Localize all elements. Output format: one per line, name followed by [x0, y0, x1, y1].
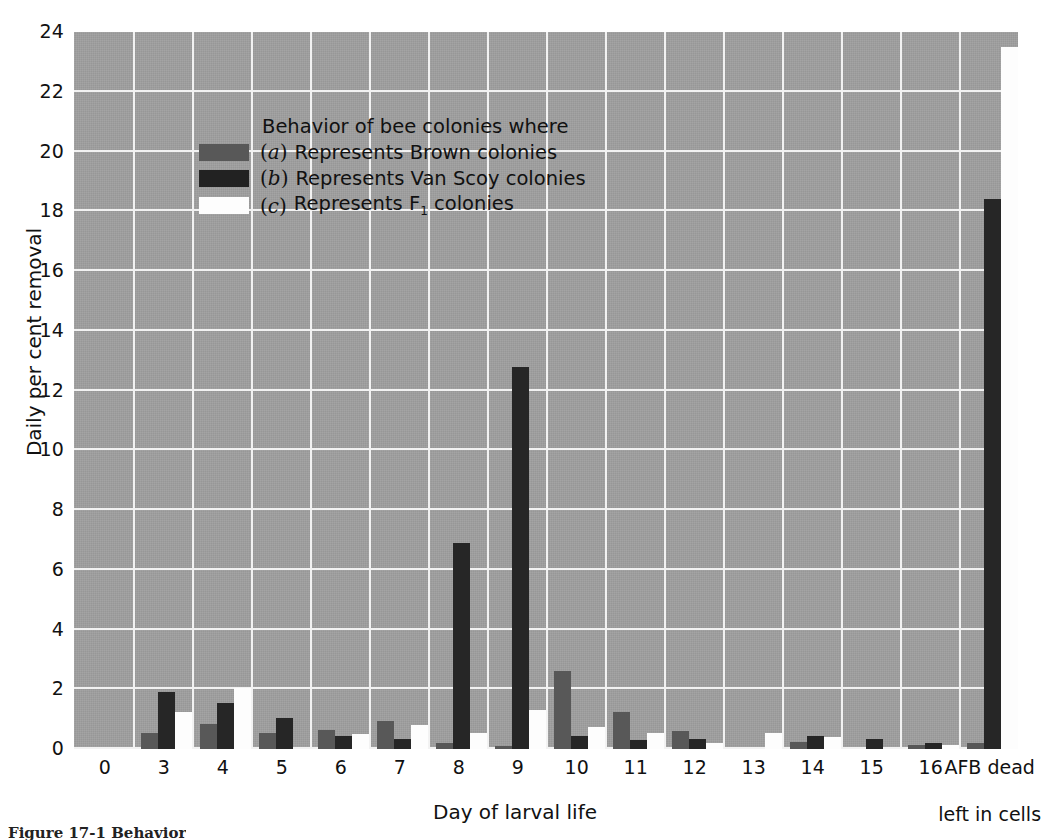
legend-label-b: Represents Van Scoy colonies	[295, 166, 585, 191]
y-tick-22: 22	[22, 80, 64, 102]
x-tick-7: 7	[370, 757, 430, 778]
bar-a-10	[554, 671, 571, 749]
bar-a-12	[672, 731, 689, 749]
y-tick-8: 8	[22, 498, 64, 520]
legend-symbol-a: (a)	[260, 139, 288, 165]
legend-swatch-a-icon	[199, 144, 249, 161]
x-tick-0: 0	[75, 757, 135, 778]
bar-b-10	[571, 736, 588, 749]
x-tick-15: 15	[842, 757, 902, 778]
bar-c-6	[352, 734, 369, 749]
x-tick-5: 5	[252, 757, 312, 778]
x-tick-11: 11	[606, 757, 666, 778]
legend-symbol-c: (c)	[260, 193, 287, 219]
x-tick-6: 6	[311, 757, 371, 778]
bar-a-AFB-dead-left-in-cells	[967, 743, 984, 749]
y-axis-title: Daily per cent removal	[22, 212, 46, 472]
y-tick-24: 24	[22, 20, 64, 42]
bar-a-11	[613, 712, 630, 749]
gridline-vertical	[841, 32, 843, 749]
bar-c-AFB-dead-left-in-cells	[1001, 47, 1018, 749]
bar-a-7	[377, 721, 394, 749]
legend-label-c: Represents F1 colonies	[294, 191, 514, 219]
x-tick-3: 3	[134, 757, 194, 778]
bar-a-14	[790, 742, 807, 749]
legend-symbol-b: (b)	[260, 165, 288, 191]
legend-title: Behavior of bee colonies where	[262, 114, 586, 139]
bar-c-10	[588, 727, 605, 749]
legend-item-c[interactable]: (c) Represents F1 colonies	[199, 191, 586, 219]
bar-a-8	[436, 743, 453, 749]
bar-b-9	[512, 367, 529, 749]
gridline-vertical	[959, 32, 961, 749]
x-tick-afb-line1: AFB dead	[928, 757, 1045, 778]
bar-c-7	[411, 725, 428, 749]
legend-swatch-c-icon	[199, 197, 249, 214]
legend: Behavior of bee colonies where (a) Repre…	[199, 114, 586, 220]
bar-a-6	[318, 730, 335, 749]
y-tick-20: 20	[22, 140, 64, 162]
gridline-vertical	[782, 32, 784, 749]
bar-b-11	[630, 740, 647, 749]
bar-a-4	[200, 724, 217, 749]
x-tick-13: 13	[724, 757, 784, 778]
x-tick-8: 8	[429, 757, 489, 778]
bar-b-AFB-dead-left-in-cells	[984, 199, 1001, 749]
x-tick-10: 10	[547, 757, 607, 778]
plot-area: Behavior of bee colonies where (a) Repre…	[74, 32, 1018, 749]
bar-c-11	[647, 733, 664, 749]
gridline-vertical	[133, 32, 135, 749]
legend-item-b[interactable]: (b) Represents Van Scoy colonies	[199, 165, 586, 191]
bar-a-5	[259, 733, 276, 749]
bar-c-8	[470, 733, 487, 749]
bar-c-9	[529, 710, 546, 749]
bar-b-15	[866, 739, 883, 749]
x-axis-title: Day of larval life	[0, 800, 1030, 824]
bar-b-5	[276, 718, 293, 749]
x-tick-12: 12	[665, 757, 725, 778]
y-tick-0: 0	[22, 737, 64, 759]
bar-b-14	[807, 736, 824, 749]
x-tick-4: 4	[193, 757, 253, 778]
gridline-vertical	[664, 32, 666, 749]
legend-label-a: Represents Brown colonies	[295, 140, 558, 165]
gridline-vertical	[723, 32, 725, 749]
gridline-vertical	[192, 32, 194, 749]
bar-b-4	[217, 703, 234, 749]
bar-b-8	[453, 543, 470, 749]
bar-c-3	[175, 712, 192, 749]
gridline-vertical	[900, 32, 902, 749]
bar-a-9	[495, 746, 512, 749]
bar-b-7	[394, 739, 411, 749]
figure-caption: Figure 17-1 Behavior	[8, 824, 186, 840]
y-tick-4: 4	[22, 618, 64, 640]
gridline-vertical	[605, 32, 607, 749]
bar-a-3	[141, 733, 158, 749]
bar-c-4	[234, 688, 251, 749]
bar-c-13	[765, 733, 782, 749]
bar-c-12	[706, 743, 723, 749]
y-tick-6: 6	[22, 558, 64, 580]
bar-b-6	[335, 736, 352, 749]
bar-b-16	[925, 743, 942, 749]
bar-c-16	[942, 745, 959, 749]
y-tick-2: 2	[22, 677, 64, 699]
legend-item-a[interactable]: (a) Represents Brown colonies	[199, 139, 586, 165]
bar-b-12	[689, 739, 706, 749]
x-tick-9: 9	[488, 757, 548, 778]
bar-b-3	[158, 692, 175, 749]
legend-swatch-b-icon	[199, 170, 249, 187]
bar-a-16	[908, 745, 925, 749]
bar-c-14	[824, 737, 841, 749]
x-tick-14: 14	[783, 757, 843, 778]
